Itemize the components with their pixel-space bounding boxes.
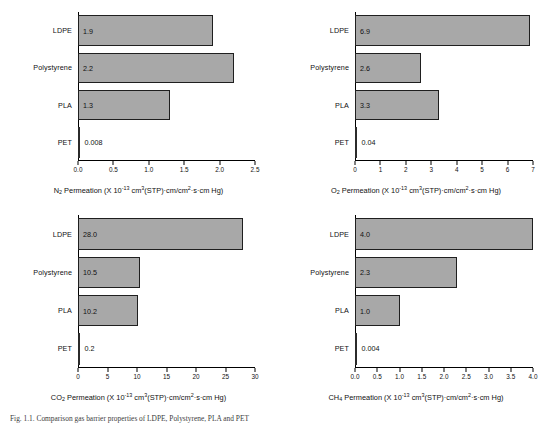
bar: 1.3 [78, 90, 170, 121]
bar-row: PLA10.2 [78, 295, 255, 326]
category-label: Polystyrene [33, 268, 72, 277]
category-label: LDPE [330, 230, 349, 239]
x-tick-label: 0.5 [373, 373, 382, 380]
bar [78, 127, 80, 158]
bar-row: PET0.004 [355, 333, 533, 364]
bar: 2.6 [355, 53, 421, 84]
category-label: PET [335, 138, 349, 147]
x-tick-label: 1.0 [395, 373, 404, 380]
x-tick [488, 368, 489, 372]
bar-value-label: 1.3 [83, 101, 93, 110]
x-tick [466, 368, 467, 372]
x-tick-label: 2.5 [462, 373, 471, 380]
bar-row: PLA3.3 [355, 90, 533, 121]
chart-panel-co2: LDPE28.0Polystyrene10.5PLA10.2PET0.2 051… [0, 203, 277, 410]
x-tick-label: 20 [192, 373, 199, 380]
bar-row: LDPE28.0 [78, 218, 255, 249]
x-tick-label: 0.5 [109, 166, 118, 173]
x-axis-title-co2: CO2 Permeation (X 10-13 cm3(STP)·cm/cm2·… [0, 392, 277, 402]
chart-grid: LDPE1.9Polystyrene2.2PLA1.3PET0.008 0.00… [0, 0, 555, 410]
x-tick [255, 161, 256, 165]
x-tick-label: 4 [455, 166, 459, 173]
x-tick-label: 5 [480, 166, 484, 173]
x-tick-label: 1.0 [144, 166, 153, 173]
x-tick [148, 161, 149, 165]
bar: 6.9 [355, 15, 530, 46]
category-label: Polystyrene [310, 63, 349, 72]
x-tick-label: 15 [163, 373, 170, 380]
x-tick [456, 161, 457, 165]
chart-panel-o2: LDPE6.9Polystyrene2.6PLA3.3PET0.04 01234… [277, 0, 555, 203]
category-label: PET [335, 344, 349, 353]
bar: 10.2 [78, 295, 138, 326]
x-tick [78, 368, 79, 372]
category-label: Polystyrene [33, 63, 72, 72]
x-tick [421, 368, 422, 372]
x-tick-label: 1.5 [180, 166, 189, 173]
bar-series-n2: LDPE1.9Polystyrene2.2PLA1.3PET0.008 [78, 12, 255, 161]
x-tick [510, 368, 511, 372]
bar-row: PET0.008 [78, 127, 255, 158]
x-tick [507, 161, 508, 165]
x-tick [405, 161, 406, 165]
bar: 2.3 [355, 257, 457, 288]
x-tick [355, 161, 356, 165]
x-tick-label: 6 [506, 166, 510, 173]
x-tick-label: 30 [251, 373, 258, 380]
bar [78, 333, 80, 364]
x-tick-label: 0 [353, 166, 357, 173]
category-label: PLA [335, 306, 349, 315]
category-label: PLA [58, 306, 72, 315]
bar-series-ch4: LDPE4.0Polystyrene2.3PLA1.0PET0.004 [355, 215, 533, 368]
x-tick [444, 368, 445, 372]
x-tick-label: 10 [133, 373, 140, 380]
bar-value-label: 0.04 [362, 138, 376, 147]
x-tick-label: 1 [379, 166, 383, 173]
bar-row: PET0.2 [78, 333, 255, 364]
category-label: LDPE [330, 26, 349, 35]
bar: 28.0 [78, 218, 243, 249]
bar: 1.9 [78, 15, 213, 46]
x-tick-label: 0.0 [351, 373, 360, 380]
x-tick-label: 0 [76, 373, 80, 380]
bar-row: LDPE1.9 [78, 15, 255, 46]
x-tick-label: 4.0 [529, 373, 538, 380]
category-label: Polystyrene [310, 268, 349, 277]
x-tick [184, 161, 185, 165]
category-label: LDPE [53, 26, 72, 35]
bar-series-o2: LDPE6.9Polystyrene2.6PLA3.3PET0.04 [355, 12, 533, 161]
bar-series-co2: LDPE28.0Polystyrene10.5PLA10.2PET0.2 [78, 215, 255, 368]
bar-value-label: 6.9 [360, 26, 370, 35]
bar-row: Polystyrene2.2 [78, 53, 255, 84]
x-tick [431, 161, 432, 165]
figure-gas-barrier-properties: LDPE1.9Polystyrene2.2PLA1.3PET0.008 0.00… [0, 0, 555, 433]
x-tick-label: 3 [430, 166, 434, 173]
bar: 10.5 [78, 257, 140, 288]
category-label: PLA [335, 101, 349, 110]
x-tick-label: 2.0 [440, 373, 449, 380]
bar [355, 127, 357, 158]
x-tick-label: 2 [404, 166, 408, 173]
bar-row: LDPE6.9 [355, 15, 533, 46]
chart-panel-n2: LDPE1.9Polystyrene2.2PLA1.3PET0.008 0.00… [0, 0, 277, 203]
bar-row: PET0.04 [355, 127, 533, 158]
bar-value-label: 1.9 [83, 26, 93, 35]
bar-value-label: 0.2 [85, 344, 95, 353]
x-tick [107, 368, 108, 372]
plot-area-o2: LDPE6.9Polystyrene2.6PLA3.3PET0.04 01234… [355, 12, 533, 161]
bar-value-label: 0.004 [362, 344, 380, 353]
bar-value-label: 3.3 [360, 101, 370, 110]
x-tick-label: 3.5 [506, 373, 515, 380]
x-tick-label: 0.0 [74, 166, 83, 173]
bar-row: Polystyrene2.3 [355, 257, 533, 288]
category-label: LDPE [53, 230, 72, 239]
plot-area-co2: LDPE28.0Polystyrene10.5PLA10.2PET0.2 051… [78, 215, 255, 368]
bar-value-label: 2.3 [360, 268, 370, 277]
bar-row: PLA1.3 [78, 90, 255, 121]
bar-value-label: 10.5 [83, 268, 97, 277]
x-tick [225, 368, 226, 372]
bar: 1.0 [355, 295, 400, 326]
x-tick-label: 5 [106, 373, 110, 380]
x-tick [137, 368, 138, 372]
x-tick [78, 161, 79, 165]
